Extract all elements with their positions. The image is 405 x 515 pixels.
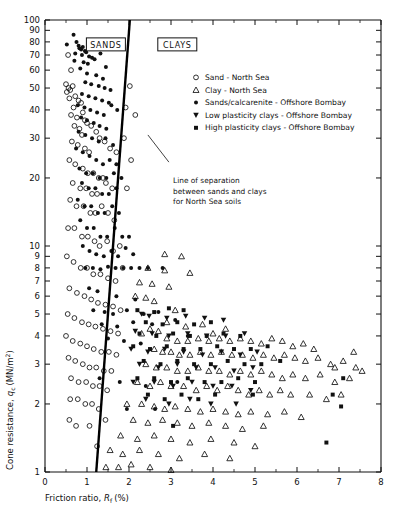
data-point-filled-circle — [98, 124, 102, 128]
data-point-filled-circle — [74, 147, 78, 151]
cpt-classification-scatter-chart: 012345678 123456789102030405060708090100… — [0, 0, 405, 515]
data-point-filled-circle — [110, 204, 114, 208]
data-point-filled-circle — [91, 308, 95, 312]
data-point-filled-circle — [161, 266, 165, 270]
data-point-filled-circle — [82, 204, 86, 208]
data-point-filled-circle — [85, 226, 89, 230]
data-point-filled-circle — [98, 176, 102, 180]
data-point-filled-circle — [81, 244, 85, 248]
x-axis-title-unit: (%) — [114, 493, 129, 503]
data-point-filled-circle — [103, 211, 107, 215]
data-point-filled-circle — [80, 53, 84, 57]
data-point-filled-circle — [83, 80, 87, 84]
data-point-filled-circle — [92, 121, 96, 125]
data-point-filled-circle — [76, 198, 80, 202]
data-point-filled-square — [165, 344, 169, 348]
y-axis-title-main: Cone resistance, — [5, 399, 15, 470]
data-point-filled-circle — [98, 52, 102, 56]
data-point-filled-circle — [76, 103, 80, 107]
data-point-filled-circle — [72, 33, 76, 37]
data-point-filled-square — [163, 397, 167, 401]
data-point-filled-circle — [72, 59, 76, 63]
data-point-filled-square — [209, 362, 213, 366]
data-point-filled-circle — [85, 118, 89, 122]
data-point-filled-circle — [102, 113, 106, 117]
data-point-filled-circle — [127, 235, 131, 239]
data-point-filled-square — [142, 359, 146, 363]
data-point-filled-circle — [122, 339, 126, 343]
y-tick-label: 20 — [29, 173, 40, 183]
annotation-line: for North Sea soils — [173, 197, 241, 206]
legend-item[interactable]: Clay - North Sea — [193, 86, 267, 95]
data-point-filled-square — [159, 362, 163, 366]
x-tick-label: 5 — [252, 477, 257, 487]
data-point-filled-square — [209, 320, 213, 324]
data-point-filled-square — [238, 334, 242, 338]
svg-text:SANDS: SANDS — [90, 41, 121, 50]
data-point-filled-square — [339, 404, 343, 408]
data-point-filled-square — [144, 320, 148, 324]
y-tick-label: 3 — [35, 359, 40, 369]
data-point-filled-circle — [139, 342, 143, 346]
data-point-filled-circle — [93, 186, 97, 190]
data-point-filled-circle — [117, 211, 121, 215]
data-point-filled-circle — [95, 110, 99, 114]
y-axis-title-close: ) — [5, 350, 15, 353]
data-point-filled-circle — [125, 407, 129, 411]
data-point-filled-circle — [144, 384, 148, 388]
data-point-filled-circle — [78, 67, 82, 71]
data-point-filled-square — [205, 334, 209, 338]
legend-item[interactable]: Sands/calcarenite - Offshore Bombay — [194, 98, 347, 107]
data-point-filled-circle — [118, 380, 122, 384]
y-tick-label: 6 — [35, 291, 40, 301]
data-point-filled-square — [192, 362, 196, 366]
data-point-filled-circle — [90, 136, 94, 140]
data-point-filled-circle — [101, 162, 105, 166]
data-point-filled-square — [266, 344, 270, 348]
data-point-filled-circle — [104, 127, 108, 131]
data-point-filled-circle — [65, 42, 69, 46]
data-point-filled-circle — [114, 162, 118, 166]
y-tick-label: 9 — [35, 251, 40, 261]
data-point-filled-circle — [119, 176, 123, 180]
x-tick-label: 2 — [126, 477, 131, 487]
data-point-filled-square — [259, 362, 263, 366]
data-point-filled-circle — [89, 82, 93, 86]
data-point-filled-circle — [96, 289, 100, 293]
x-tick-label: 1 — [84, 477, 89, 487]
data-point-filled-circle — [100, 322, 104, 326]
x-tick-label: 6 — [294, 477, 299, 487]
data-point-filled-circle — [133, 297, 137, 301]
data-point-filled-circle — [100, 192, 104, 196]
data-point-filled-square — [198, 347, 202, 351]
data-point-filled-circle — [92, 226, 96, 230]
data-point-filled-square — [169, 380, 173, 384]
data-point-filled-square — [226, 359, 230, 363]
data-point-filled-square — [138, 332, 142, 336]
data-point-filled-circle — [97, 84, 101, 88]
data-point-filled-circle — [79, 116, 83, 120]
data-point-filled-square — [180, 393, 184, 397]
data-point-filled-circle — [98, 235, 102, 239]
legend-item[interactable]: Sand - North Sea — [194, 73, 270, 82]
data-point-filled-square — [196, 397, 200, 401]
data-point-filled-square — [236, 376, 240, 380]
legend-item[interactable]: High plasticity clays - Offshore Bombay — [194, 123, 355, 132]
data-point-filled-square — [341, 376, 345, 380]
y-tick-label: 8 — [35, 263, 40, 273]
data-point-filled-circle — [81, 45, 85, 49]
data-point-filled-circle — [93, 57, 97, 61]
data-point-filled-circle — [194, 101, 198, 105]
data-point-filled-circle — [115, 108, 119, 112]
data-point-filled-circle — [83, 266, 87, 270]
data-point-filled-circle — [75, 40, 79, 44]
data-point-filled-circle — [88, 154, 92, 158]
data-point-filled-square — [192, 322, 196, 326]
data-point-filled-circle — [100, 99, 104, 103]
data-point-filled-circle — [77, 130, 81, 134]
data-point-filled-circle — [81, 150, 85, 154]
y-tick-label: 60 — [29, 65, 40, 75]
data-point-filled-circle — [120, 235, 124, 239]
data-point-filled-circle — [116, 254, 120, 258]
legend-item[interactable]: Low plasticity clays - Offshore Bombay — [193, 111, 352, 120]
